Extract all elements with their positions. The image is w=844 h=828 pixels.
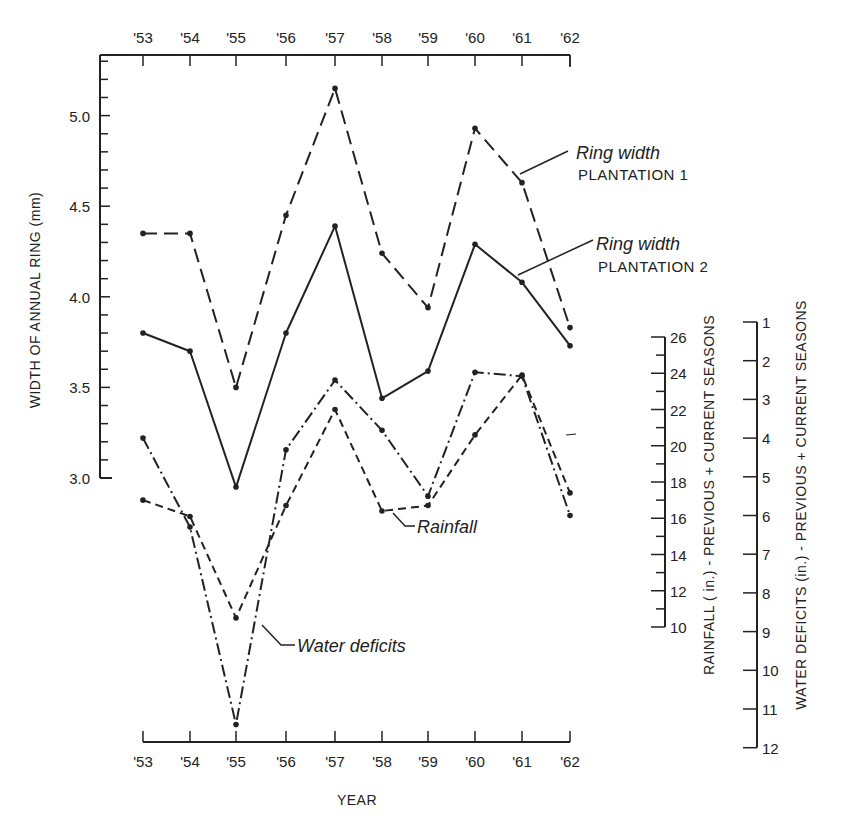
top-axis-tick-label: '59: [418, 29, 438, 46]
data-point: [140, 330, 146, 336]
data-point: [425, 305, 431, 311]
data-point: [140, 435, 146, 441]
deficit-axis-tick-label: 10: [762, 662, 779, 679]
label-plantation-1-title: Ring width: [576, 143, 660, 163]
data-point: [472, 125, 478, 131]
rainfall-axis-title: RAINFALL ( in.) - PREVIOUS + CURRENT SEA…: [701, 315, 717, 675]
top-axis-tick-label: '58: [372, 29, 392, 46]
data-point: [567, 513, 573, 519]
label-rainfall: Rainfall: [417, 517, 478, 537]
rainfall-axis-tick-label: 16: [670, 510, 687, 527]
data-point: [332, 377, 338, 383]
left-axis-tick-label: 3.5: [69, 379, 90, 396]
bottom-axis-tick-label: '54: [180, 753, 200, 770]
data-point: [233, 385, 239, 391]
data-point: [283, 212, 289, 218]
deficit-axis-tick-label: 11: [762, 701, 778, 718]
data-point: [332, 223, 338, 229]
data-point: [332, 407, 338, 413]
left-axis-tick-label: 5.0: [69, 108, 90, 125]
series-line-left-1: [143, 226, 570, 487]
bottom-axis-tick-label: '53: [133, 753, 153, 770]
data-point: [567, 325, 573, 331]
rainfall-axis-tick-label: 12: [670, 583, 687, 600]
rainfall-axis-tick-label: 24: [670, 365, 687, 382]
data-point: [425, 493, 431, 499]
data-point: [233, 722, 239, 728]
data-point: [187, 524, 193, 530]
data-point: [379, 251, 385, 257]
bottom-axis-tick-label: '55: [226, 753, 246, 770]
bottom-axis-tick-label: '60: [465, 753, 485, 770]
deficit-axis-tick-label: 8: [762, 585, 770, 602]
bottom-axis-tick-label: '57: [325, 753, 345, 770]
data-point: [233, 484, 239, 490]
left-axis-tick-label: 4.5: [69, 198, 90, 215]
data-point: [379, 508, 385, 514]
labels-layer: Ring widthPLANTATION 1Ring widthPLANTATI…: [262, 143, 708, 656]
top-axis-tick-label: '56: [276, 29, 296, 46]
data-point: [283, 503, 289, 509]
data-point: [472, 432, 478, 438]
data-point: [519, 280, 525, 286]
deficit-axis-tick-label: 9: [762, 624, 770, 641]
data-point: [187, 348, 193, 354]
rainfall-axis-tick-label: 22: [670, 402, 687, 419]
data-point: [283, 330, 289, 336]
chart-canvas: 3.03.54.04.55.0WIDTH OF ANNUAL RING (mm)…: [0, 0, 844, 828]
data-point: [425, 368, 431, 374]
data-point: [519, 373, 525, 379]
top-axis-tick-label: '60: [465, 29, 485, 46]
left-axis-title: WIDTH OF ANNUAL RING (mm): [27, 192, 43, 409]
deficit-axis-tick-label: 7: [762, 546, 770, 563]
left-axis-tick-label: 3.0: [69, 470, 90, 487]
left-axis-tick-label: 4.0: [69, 289, 90, 306]
data-point: [472, 241, 478, 247]
data-point: [567, 343, 573, 349]
x-axis-title: YEAR: [337, 792, 377, 808]
deficit-axis-tick-label: 6: [762, 508, 770, 525]
data-point: [425, 503, 431, 509]
rainfall-axis-tick-label: 10: [670, 619, 687, 636]
data-point: [379, 395, 385, 401]
bottom-axis-tick-label: '58: [372, 753, 392, 770]
series-layer: [140, 86, 573, 728]
deficit-axis-tick-label: 4: [762, 430, 770, 447]
bottom-axis-tick-label: '56: [276, 753, 296, 770]
rainfall-axis-tick-label: 18: [670, 474, 687, 491]
data-point: [379, 428, 385, 434]
axes: 3.03.54.04.55.0WIDTH OF ANNUAL RING (mm)…: [27, 29, 809, 808]
label-plantation-2-title: Ring width: [596, 234, 680, 254]
data-point: [140, 497, 146, 503]
data-point: [187, 231, 193, 237]
data-point: [187, 514, 193, 520]
data-point: [283, 447, 289, 453]
top-axis-tick-label: '61: [512, 29, 532, 46]
bottom-axis-tick-label: '61: [512, 753, 532, 770]
bottom-axis-tick-label: '62: [560, 753, 580, 770]
label-plantation-1-sub: PLANTATION 1: [578, 166, 688, 183]
stray-mark: [566, 434, 576, 435]
deficit-axis-title: WATER DEFICITS (in.) - PREVIOUS + CURREN…: [793, 300, 809, 710]
label-plantation-2-sub: PLANTATION 2: [598, 258, 708, 275]
rainfall-axis-tick-label: 26: [670, 329, 687, 346]
deficit-axis-tick-label: 5: [762, 469, 770, 486]
top-axis-tick-label: '54: [180, 29, 200, 46]
series-line-left-0: [143, 88, 570, 387]
bottom-axis-tick-label: '59: [418, 753, 438, 770]
top-axis-tick-label: '57: [325, 29, 345, 46]
rainfall-axis-tick-label: 20: [670, 438, 687, 455]
data-point: [567, 490, 573, 496]
top-axis-tick-label: '55: [226, 29, 246, 46]
data-point: [472, 370, 478, 376]
top-axis-tick-label: '53: [133, 29, 153, 46]
deficit-axis-tick-label: 1: [762, 314, 770, 331]
top-axis-tick-label: '62: [560, 29, 580, 46]
series-line-water_deficits-3: [143, 372, 570, 724]
rainfall-axis-tick-label: 14: [670, 547, 687, 564]
deficit-axis-tick-label: 12: [762, 740, 779, 757]
label-water-deficits: Water deficits: [297, 636, 406, 656]
data-point: [140, 231, 146, 237]
series-line-rainfall-2: [143, 375, 570, 618]
data-point: [233, 615, 239, 621]
